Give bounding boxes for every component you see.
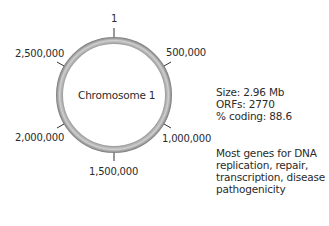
tick-2000000	[57, 124, 64, 128]
orfs-stat: ORFs: 2770	[216, 98, 292, 110]
description-line: pathogenicity	[216, 183, 325, 195]
coding-stat: % coding: 88.6	[216, 110, 292, 122]
tick-500000	[164, 62, 171, 66]
tick-label-1000000: 1,000,000	[162, 133, 211, 145]
tick-label-2000000: 2,000,000	[15, 132, 64, 144]
gene-function-description: Most genes for DNA replication, repair, …	[216, 147, 325, 195]
tick-label-1500000: 1,500,000	[89, 166, 138, 178]
tick-label-2500000: 2,500,000	[15, 48, 64, 60]
tick-2500000	[57, 62, 64, 66]
size-stat: Size: 2.96 Mb	[216, 86, 292, 98]
chromosome-label: Chromosome 1	[78, 89, 155, 101]
description-line: Most genes for DNA	[216, 147, 325, 159]
tick-1000000	[164, 124, 171, 128]
description-line: transcription, disease	[216, 171, 325, 183]
tick-label-500000: 500,000	[166, 47, 206, 59]
chromosome-stats: Size: 2.96 Mb ORFs: 2770 % coding: 88.6	[216, 86, 292, 122]
tick-label-1: 1	[111, 13, 117, 25]
description-line: replication, repair,	[216, 159, 325, 171]
